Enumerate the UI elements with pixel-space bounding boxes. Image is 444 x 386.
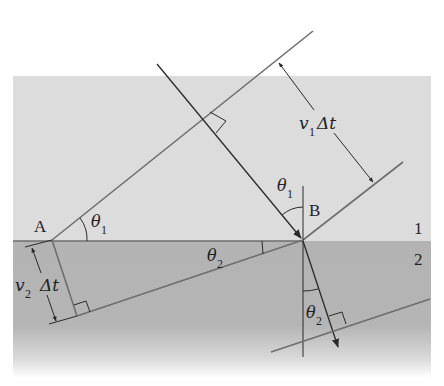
svg-text:1: 1 bbox=[101, 223, 107, 237]
medium-1-label: 1 bbox=[414, 219, 423, 238]
svg-text:2: 2 bbox=[217, 257, 223, 271]
point-a-label: A bbox=[34, 217, 47, 236]
svg-text:Δt: Δt bbox=[316, 113, 336, 133]
medium-1-region bbox=[13, 76, 431, 241]
svg-text:v: v bbox=[299, 113, 309, 133]
svg-text:2: 2 bbox=[25, 287, 31, 301]
svg-text:2: 2 bbox=[316, 314, 322, 328]
svg-text:v: v bbox=[15, 275, 25, 295]
svg-text:θ: θ bbox=[277, 176, 287, 195]
svg-text:θ: θ bbox=[91, 212, 101, 231]
medium-2-label: 2 bbox=[414, 250, 423, 269]
svg-text:1: 1 bbox=[309, 125, 315, 139]
point-b-label: B bbox=[309, 201, 320, 220]
svg-text:θ: θ bbox=[306, 303, 316, 322]
refraction-diagram: A B 1 2 θ 1 θ 1 θ 2 θ 2 v 1 Δt v 2 Δt bbox=[0, 0, 444, 386]
svg-text:1: 1 bbox=[287, 187, 293, 201]
svg-text:Δt: Δt bbox=[39, 275, 59, 295]
svg-text:θ: θ bbox=[207, 246, 217, 265]
